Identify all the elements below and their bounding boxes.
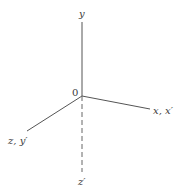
x-axis [82, 96, 150, 109]
y-axis-label: y [78, 8, 85, 19]
origin-label: 0 [72, 87, 78, 98]
z-axis-label: z, y′ [7, 135, 28, 146]
coordinate-axes-diagram: y 0 x, x′ z, y′ z′ [0, 0, 182, 187]
z-axis [27, 96, 82, 131]
z-prime-axis-label: z′ [77, 176, 86, 187]
x-axis-label: x, x′ [153, 105, 174, 116]
